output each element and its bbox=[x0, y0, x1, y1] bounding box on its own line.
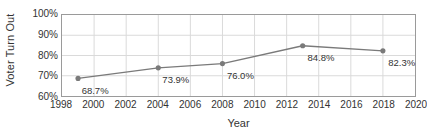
x-axis-tick-label: 2002 bbox=[114, 99, 136, 111]
x-axis-tick-label: 1998 bbox=[50, 99, 72, 111]
x-axis-tick-label: 2010 bbox=[244, 99, 266, 111]
y-axis-title: Voter Turn Out bbox=[0, 0, 20, 100]
data-point-label: 68.7% bbox=[82, 86, 109, 96]
x-axis-tick-label: 2014 bbox=[308, 99, 330, 111]
x-axis-tick-label: 2000 bbox=[82, 99, 104, 111]
x-axis-tick-label: 2004 bbox=[147, 99, 169, 111]
x-axis-tick-label: 2018 bbox=[373, 99, 395, 111]
data-point-marker bbox=[156, 65, 161, 70]
x-axis-tick-label: 2020 bbox=[405, 99, 427, 111]
data-point-label: 82.3% bbox=[388, 58, 415, 68]
data-point-marker bbox=[380, 48, 385, 53]
y-axis-tick-label: 100% bbox=[18, 9, 58, 19]
data-point-marker bbox=[300, 43, 305, 48]
x-axis-tick-label: 2008 bbox=[211, 99, 233, 111]
x-axis-title: Year bbox=[61, 117, 416, 129]
y-axis-title-label: Voter Turn Out bbox=[4, 14, 16, 87]
y-axis-tick-label: 80% bbox=[18, 51, 58, 61]
data-point-label: 84.8% bbox=[308, 53, 335, 63]
x-axis-tick-label: 2006 bbox=[179, 99, 201, 111]
voter-turnout-line-chart: Voter Turn Out 60%70%80%90%100% 19982000… bbox=[0, 0, 427, 138]
x-axis-tick-label: 2016 bbox=[340, 99, 362, 111]
y-axis-tick-label: 70% bbox=[18, 71, 58, 81]
data-point-label: 76.0% bbox=[227, 71, 254, 81]
y-axis-tick-label: 90% bbox=[18, 30, 58, 40]
x-axis-tick-label: 2012 bbox=[276, 99, 298, 111]
data-point-label: 73.9% bbox=[162, 75, 189, 85]
y-axis-tick-labels: 60%70%80%90%100% bbox=[18, 0, 58, 138]
data-point-marker bbox=[220, 61, 225, 66]
x-axis-tick-labels: 1998200020022004200620082010201220142016… bbox=[61, 99, 416, 113]
data-series-line bbox=[62, 15, 415, 96]
plot-area bbox=[61, 14, 416, 97]
data-point-marker bbox=[75, 76, 80, 81]
